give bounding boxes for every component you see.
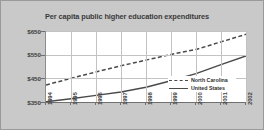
chart-figure: Per capita public higher education expen… bbox=[0, 0, 264, 130]
y-axis-tick bbox=[41, 78, 45, 79]
x-axis-tick-label: 1997 bbox=[122, 92, 128, 105]
x-axis-tick-label: 1995 bbox=[72, 92, 78, 105]
x-axis-tick-label: 1994 bbox=[47, 92, 53, 105]
legend-swatch-dashed bbox=[169, 80, 188, 81]
legend-item: North Carolina bbox=[168, 77, 236, 84]
x-axis-tick bbox=[120, 102, 121, 105]
y-axis-tick-label: $450 bbox=[7, 75, 41, 82]
x-axis-tick bbox=[195, 102, 196, 105]
x-axis-tick-label: 2000 bbox=[197, 92, 203, 105]
y-axis-tick bbox=[41, 31, 45, 32]
x-axis-tick bbox=[170, 102, 171, 105]
x-axis-tick-label: 1998 bbox=[147, 92, 153, 105]
x-axis-tick bbox=[245, 102, 246, 105]
x-axis-tick-label: 1999 bbox=[172, 92, 178, 105]
x-axis-tick bbox=[145, 102, 146, 105]
x-axis-tick-label: 2002 bbox=[247, 92, 253, 105]
x-axis-tick bbox=[220, 102, 221, 105]
legend-label: United States bbox=[191, 85, 225, 91]
chart-title: Per capita public higher education expen… bbox=[45, 12, 245, 21]
x-axis-tick bbox=[45, 102, 46, 105]
legend-label: North Carolina bbox=[191, 77, 228, 83]
y-axis-tick-label: $650 bbox=[7, 28, 41, 35]
legend-swatch-solid bbox=[169, 88, 188, 89]
y-axis-tick-label: $350 bbox=[7, 99, 41, 106]
y-axis-tick-label: $550 bbox=[7, 51, 41, 58]
chart-legend: North CarolinaUnited States bbox=[168, 76, 236, 92]
y-axis-labels: $350$450$550$650 bbox=[5, 1, 41, 130]
x-axis-tick bbox=[70, 102, 71, 105]
y-axis-tick bbox=[41, 55, 45, 56]
x-axis-tick-label: 2001 bbox=[222, 92, 228, 105]
x-axis-tick bbox=[95, 102, 96, 105]
x-axis-tick-label: 1996 bbox=[97, 92, 103, 105]
legend-item: United States bbox=[168, 85, 236, 92]
